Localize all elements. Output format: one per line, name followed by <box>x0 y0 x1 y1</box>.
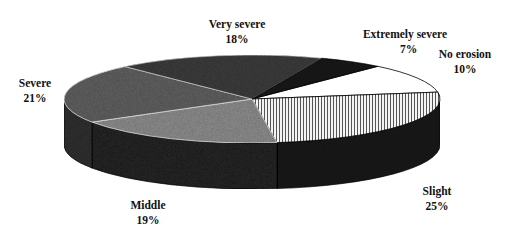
label-no-erosion-name: No erosion <box>425 47 505 62</box>
label-middle-pct: 19% <box>118 213 178 228</box>
label-slight-pct: 25% <box>412 199 462 214</box>
label-no-erosion: No erosion 10% <box>425 47 505 77</box>
label-severe: Severe 21% <box>10 76 60 106</box>
label-very-severe-name: Very severe <box>182 17 292 32</box>
label-middle-name: Middle <box>118 198 178 213</box>
label-severe-pct: 21% <box>10 91 60 106</box>
label-slight: Slight 25% <box>412 184 462 214</box>
label-slight-name: Slight <box>412 184 462 199</box>
label-very-severe-pct: 18% <box>182 32 292 47</box>
pie-top <box>64 55 440 143</box>
label-very-severe: Very severe 18% <box>182 17 292 47</box>
label-no-erosion-pct: 10% <box>425 62 505 77</box>
label-extremely-severe-name: Extremely severe <box>350 27 460 42</box>
label-middle: Middle 19% <box>118 198 178 228</box>
label-severe-name: Severe <box>10 76 60 91</box>
